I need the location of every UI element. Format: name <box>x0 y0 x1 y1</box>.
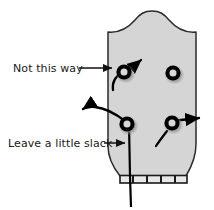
label-not-this-way-text: Not this way <box>13 62 83 75</box>
peg-top-left[interactable] <box>116 64 136 83</box>
headstock-body <box>108 11 196 176</box>
headstock-outline <box>108 11 196 176</box>
label-leave-a-little-slack: Leave a little slack <box>8 137 125 150</box>
peg-bottom-right[interactable] <box>164 115 184 134</box>
headstock-diagram: Not this way Leave a little slack <box>0 0 214 210</box>
peg-top-right[interactable] <box>165 65 185 84</box>
peg-bottom-right-hole <box>169 120 176 127</box>
peg-top-right-hole <box>170 70 177 77</box>
peg-top-left-hole <box>121 69 128 76</box>
label-not-this-way: Not this way <box>13 62 112 75</box>
diagram-canvas: Not this way Leave a little slack <box>0 0 214 210</box>
peg-bottom-left-hole <box>124 121 131 128</box>
label-leave-a-little-slack-text: Leave a little slack <box>8 137 113 150</box>
peg-bottom-left[interactable] <box>119 116 139 135</box>
